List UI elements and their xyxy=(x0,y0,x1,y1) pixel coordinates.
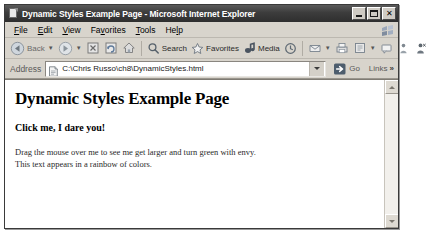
print-icon xyxy=(335,41,349,55)
menu-item-favorites[interactable]: Favorites xyxy=(86,24,131,36)
close-icon: ✕ xyxy=(383,8,395,19)
favorites-button[interactable]: Favorites xyxy=(189,39,241,58)
menu-item-file[interactable]: File xyxy=(9,24,33,36)
go-label: Go xyxy=(349,64,360,73)
minimize-button[interactable] xyxy=(352,7,366,20)
stop-icon xyxy=(86,41,100,55)
toolbar-separator-1 xyxy=(141,41,142,56)
print-button[interactable] xyxy=(333,39,351,58)
scroll-up-button[interactable] xyxy=(385,80,398,94)
back-button[interactable]: Back ▼ xyxy=(8,39,56,58)
scroll-down-button[interactable] xyxy=(385,214,398,228)
menu-label-view-rest: iew xyxy=(68,25,81,35)
discuss-icon xyxy=(380,42,393,55)
back-arrow-icon xyxy=(10,41,25,56)
edit-button[interactable]: ▼ xyxy=(351,39,378,58)
address-label: Address xyxy=(10,64,41,74)
web-page-content: Dynamic Styles Example Page Click me, I … xyxy=(5,80,384,228)
ie-page-icon xyxy=(8,8,19,19)
address-input[interactable]: C:\Chris Russo\ch8\DynamicStyles.html xyxy=(45,61,326,77)
messenger-icon xyxy=(414,42,427,55)
forward-button[interactable]: ▼ xyxy=(56,39,84,58)
forward-dropdown-icon[interactable]: ▼ xyxy=(76,45,82,51)
page-icon xyxy=(48,63,59,74)
edit-dropdown-icon[interactable]: ▼ xyxy=(370,45,376,51)
content-viewport: Dynamic Styles Example Page Click me, I … xyxy=(5,79,398,228)
refresh-button[interactable] xyxy=(102,39,120,58)
media-label: Media xyxy=(258,44,280,53)
search-icon xyxy=(147,42,160,55)
messenger-button[interactable] xyxy=(412,39,429,58)
vertical-scrollbar[interactable] xyxy=(384,80,398,228)
scroll-up-arrow-icon xyxy=(389,86,395,89)
menu-label-edit-rest: dit xyxy=(43,25,52,35)
media-button[interactable]: Media xyxy=(241,39,282,58)
media-icon xyxy=(243,42,256,55)
browser-window: Dynamic Styles Example Page - Microsoft … xyxy=(4,4,399,229)
home-icon xyxy=(122,41,136,55)
maximize-button[interactable] xyxy=(367,7,381,20)
back-label: Back xyxy=(27,44,45,53)
scrollbar-track[interactable] xyxy=(385,94,398,214)
search-label: Search xyxy=(162,44,187,53)
menu-label-file-rest: ile xyxy=(19,25,28,35)
menu-bar: File Edit View Favorites Tools Help xyxy=(5,22,398,38)
address-dropdown-button[interactable] xyxy=(309,62,324,76)
mail-dropdown-icon[interactable]: ▼ xyxy=(325,45,331,51)
links-button[interactable]: Links » xyxy=(367,64,396,73)
home-button[interactable] xyxy=(120,39,138,58)
edit-page-icon xyxy=(353,41,367,55)
stop-button[interactable] xyxy=(84,39,102,58)
mail-icon xyxy=(308,41,322,55)
scroll-down-arrow-icon xyxy=(389,220,395,223)
mail-button[interactable]: ▼ xyxy=(306,39,333,58)
menu-item-view[interactable]: View xyxy=(57,24,85,36)
menu-item-help[interactable]: Help xyxy=(160,24,188,36)
menu-item-tools[interactable]: Tools xyxy=(131,24,161,36)
window-title: Dynamic Styles Example Page - Microsoft … xyxy=(22,9,352,19)
page-subheading[interactable]: Click me, I dare you! xyxy=(15,122,376,133)
search-button[interactable]: Search xyxy=(145,39,189,58)
favorites-label: Favorites xyxy=(206,44,239,53)
double-chevron-icon: » xyxy=(390,64,394,73)
chevron-down-icon xyxy=(314,67,320,70)
page-title: Dynamic Styles Example Page xyxy=(15,89,376,109)
forward-arrow-icon xyxy=(58,41,73,56)
close-button[interactable]: ✕ xyxy=(382,7,396,20)
go-button[interactable]: Go xyxy=(330,61,363,77)
research-button[interactable] xyxy=(395,39,412,58)
menu-item-edit[interactable]: Edit xyxy=(33,24,58,36)
navigation-toolbar: Back ▼ ▼ xyxy=(5,38,398,59)
back-dropdown-icon[interactable]: ▼ xyxy=(48,45,54,51)
history-button[interactable] xyxy=(282,39,299,58)
discuss-button[interactable] xyxy=(378,39,395,58)
star-icon xyxy=(191,42,204,55)
windows-flag-icon xyxy=(381,23,394,36)
toolbar-separator-2 xyxy=(302,41,303,56)
history-icon xyxy=(284,42,297,55)
links-label: Links xyxy=(369,64,388,73)
research-icon xyxy=(397,42,410,55)
body-paragraph-1[interactable]: Drag the mouse over me to see me get lar… xyxy=(15,147,376,157)
window-controls: ✕ xyxy=(352,7,397,20)
body-paragraph-2: This text appears in a rainbow of colors… xyxy=(15,159,376,169)
address-bar: Address C:\Chris Russo\ch8\DynamicStyles… xyxy=(5,59,398,79)
title-bar[interactable]: Dynamic Styles Example Page - Microsoft … xyxy=(5,5,398,22)
address-value: C:\Chris Russo\ch8\DynamicStyles.html xyxy=(62,64,309,73)
refresh-icon xyxy=(104,41,118,55)
go-arrow-icon xyxy=(333,62,347,76)
